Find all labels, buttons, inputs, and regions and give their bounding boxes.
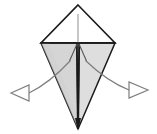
- origami-diagram: Origami fold step diagram: [0, 0, 157, 134]
- origami-figure-svg: [0, 0, 157, 134]
